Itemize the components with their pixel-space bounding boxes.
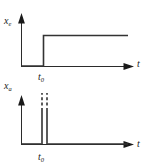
step-plot: [0, 0, 150, 84]
signal-diagram-figure: xe t t0 xa t t0: [0, 0, 150, 167]
impulse-time-marker-subscript: 0: [41, 156, 44, 163]
impulse-x-axis-label: t: [137, 139, 140, 149]
step-signal-trace: [22, 36, 129, 67]
impulse-time-marker-label: t0: [38, 152, 44, 162]
impulse-plot: [0, 83, 150, 167]
impulse-y-axis-label: xa: [4, 81, 12, 91]
step-y-axis-label-subscript: e: [8, 20, 11, 27]
step-time-marker-label: t0: [38, 72, 44, 82]
step-y-axis: [18, 13, 25, 67]
step-y-axis-label: xe: [4, 16, 11, 26]
impulse-y-axis-label-subscript: a: [8, 85, 11, 92]
impulse-y-axis: [18, 95, 25, 145]
step-x-axis-label: t: [137, 59, 140, 69]
step-time-marker-subscript: 0: [41, 76, 44, 83]
